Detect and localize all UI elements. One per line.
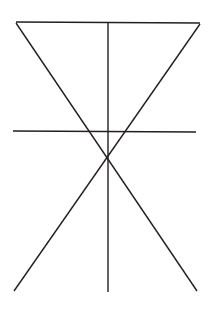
middle-horizontal-line [13, 131, 196, 132]
line-figure-svg [0, 0, 213, 310]
figure-canvas [0, 0, 213, 310]
